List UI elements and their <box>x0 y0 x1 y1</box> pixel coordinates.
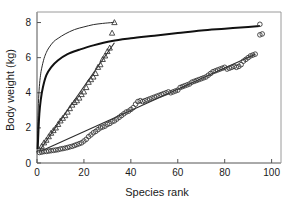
x-axis-label: Species rank <box>125 186 189 198</box>
y-tick-label: 4 <box>25 87 31 98</box>
y-tick-label: 2 <box>25 122 31 133</box>
x-tick-label: 40 <box>125 167 137 178</box>
y-tick-label: 0 <box>25 158 31 169</box>
x-tick-label: 60 <box>172 167 184 178</box>
x-tick-label: 0 <box>34 167 40 178</box>
y-tick-label: 8 <box>25 17 31 28</box>
chart-plot-area: 020406080100 02468 Species rank Body wei… <box>0 0 295 203</box>
x-tick-label: 100 <box>263 167 280 178</box>
y-tick-label: 6 <box>25 52 31 63</box>
chart-figure: 020406080100 02468 Species rank Body wei… <box>0 0 295 203</box>
x-tick-label: 20 <box>78 167 90 178</box>
x-tick-label: 80 <box>219 167 231 178</box>
y-axis-label: Body weight (kg) <box>4 49 16 131</box>
